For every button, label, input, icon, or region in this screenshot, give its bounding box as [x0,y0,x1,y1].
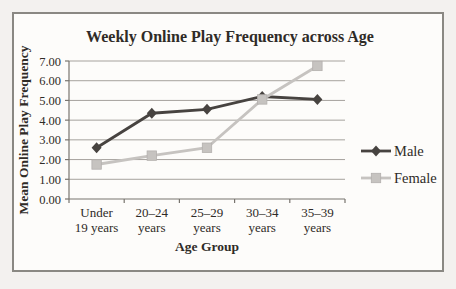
legend-male-label: Male [394,143,424,159]
male-marker [312,94,322,105]
y-tick-label: 0.00 [39,193,61,207]
x-tick-label: 20–24years [136,205,169,235]
y-tick-label: 6.00 [39,74,61,88]
chart-title: Weekly Online Play Frequency across Age [86,28,374,46]
male-marker [147,108,157,119]
y-tick-label: 7.00 [39,55,61,69]
female-marker [371,173,380,182]
male-marker [202,104,212,115]
y-tick-label: 4.00 [39,114,61,128]
x-tick-label: 25–29years [191,205,224,235]
screenshot-root: { "figure": { "border_color": "#8a8883",… [0,0,456,289]
y-tick-label: 2.00 [39,153,61,167]
legend-female-label: Female [394,170,437,186]
line-chart: 0.001.002.003.004.005.006.007.00Weekly O… [14,14,442,270]
y-tick-label: 5.00 [39,94,61,108]
y-tick-label: 3.00 [39,133,61,147]
female-marker [147,151,156,160]
female-marker [92,160,101,169]
male-marker [92,142,102,153]
female-marker [313,61,322,70]
male-marker [371,146,381,157]
female-marker [202,143,211,152]
x-axis-label: Age Group [175,239,239,254]
chart-figure: 0.001.002.003.004.005.006.007.00Weekly O… [12,12,444,272]
y-axis-label: Mean Online Play Frequency [16,45,31,214]
y-tick-label: 1.00 [39,173,61,187]
female-marker [258,95,267,104]
x-tick-label: 30–34years [246,205,279,235]
x-tick-label: Under19 years [75,205,119,235]
x-tick-label: 35–39years [301,205,334,235]
